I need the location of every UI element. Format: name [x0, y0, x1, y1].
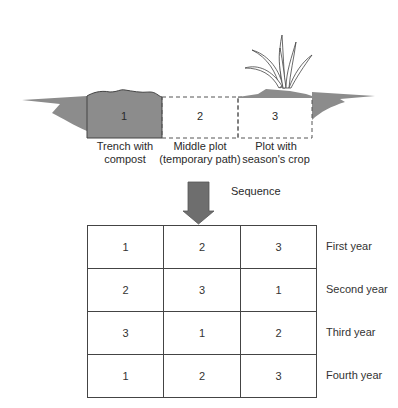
table-cell: 3 [241, 226, 317, 269]
plant-icon [245, 35, 312, 88]
table-cell: 2 [164, 355, 241, 398]
plot-label-3-line2: season's crop [226, 153, 326, 166]
table-cell: 2 [88, 269, 164, 312]
soil-mound [238, 89, 312, 98]
table-cell: 1 [241, 269, 317, 312]
plot-number-2: 2 [190, 110, 210, 122]
plot-label-3-line1: Plot with [226, 140, 326, 153]
year-label-second: Second year [326, 283, 388, 295]
table-cell: 3 [88, 312, 164, 355]
table-cell: 1 [88, 355, 164, 398]
table-cell: 1 [88, 226, 164, 269]
table-cell: 2 [164, 226, 241, 269]
table-cell: 3 [164, 269, 241, 312]
table-cell: 1 [164, 312, 241, 355]
table-cell: 3 [241, 355, 317, 398]
plot-number-1: 1 [114, 110, 134, 122]
table-row: 3 1 2 [88, 312, 317, 355]
sequence-arrow-icon [183, 182, 214, 224]
ground-right [312, 92, 375, 120]
plot-label-3: Plot with season's crop [226, 140, 326, 166]
year-label-fourth: Fourth year [326, 369, 382, 381]
year-label-first: First year [326, 240, 372, 252]
table-cell: 2 [241, 312, 317, 355]
year-label-third: Third year [326, 326, 376, 338]
table-row: 2 3 1 [88, 269, 317, 312]
ground-left [22, 96, 87, 131]
table-row: 1 2 3 [88, 226, 317, 269]
table-row: 1 2 3 [88, 355, 317, 398]
plot-number-3: 3 [265, 110, 285, 122]
rotation-table: 1 2 3 2 3 1 3 1 2 1 2 3 [87, 225, 317, 398]
sequence-label: Sequence [231, 185, 281, 197]
